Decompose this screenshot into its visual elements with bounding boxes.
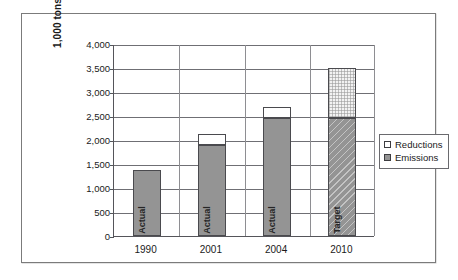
bar-group[interactable]: Target bbox=[328, 44, 356, 236]
legend-swatch-icon bbox=[384, 154, 391, 161]
plot-right-border bbox=[374, 45, 375, 236]
bar-group[interactable]: Actual bbox=[198, 44, 226, 236]
bar-segment-emissions[interactable] bbox=[198, 145, 226, 236]
y-axis-tick-label: 1,500 bbox=[68, 160, 110, 170]
legend-item[interactable]: Emissions bbox=[384, 151, 443, 164]
plot-area: ActualActualActualTarget bbox=[113, 45, 374, 237]
x-axis-tick-label: 2001 bbox=[178, 243, 243, 257]
bar-segment-reductions[interactable] bbox=[198, 134, 226, 145]
y-axis-tick-label: 2,500 bbox=[68, 112, 110, 122]
y-axis-tick-label: 3,000 bbox=[68, 88, 110, 98]
bar-segment-reductions[interactable] bbox=[328, 68, 356, 118]
legend-label: Reductions bbox=[395, 139, 443, 150]
legend-swatch-icon bbox=[384, 141, 391, 148]
chart-legend: ReductionsEmissions bbox=[379, 134, 449, 169]
bar-segment-emissions[interactable] bbox=[263, 118, 291, 236]
bar-segment-emissions[interactable] bbox=[328, 118, 356, 236]
x-axis-tick-label: 2010 bbox=[309, 243, 374, 257]
y-axis-tick-labels: 05001,0001,5002,0002,5003,0003,5004,000 bbox=[68, 40, 110, 237]
bar-segment-emissions[interactable] bbox=[133, 170, 161, 236]
y-axis-title-main: 1,000 tons eCO bbox=[52, 0, 63, 48]
legend-item[interactable]: Reductions bbox=[384, 138, 443, 151]
y-axis-tick-mark bbox=[110, 237, 114, 238]
y-axis-tick-label: 2,000 bbox=[68, 136, 110, 146]
bar-segment-reductions[interactable] bbox=[263, 107, 291, 118]
figure-frame: 1,000 tons eCO2 05001,0001,5002,0002,500… bbox=[21, 13, 436, 263]
x-axis-tick-label: 1990 bbox=[113, 243, 178, 257]
bar-group[interactable]: Actual bbox=[133, 44, 161, 236]
y-axis-tick-label: 500 bbox=[68, 208, 110, 218]
y-axis-tick-label: 3,500 bbox=[68, 64, 110, 74]
x-axis-tick-label: 2004 bbox=[244, 243, 309, 257]
x-axis-tick-labels: 1990200120042010 bbox=[113, 243, 374, 259]
legend-label: Emissions bbox=[395, 152, 438, 163]
bars-layer: ActualActualActualTarget bbox=[114, 45, 374, 236]
y-axis-tick-label: 1,000 bbox=[68, 184, 110, 194]
y-axis-tick-label: 0 bbox=[68, 232, 110, 242]
y-axis-tick-label: 4,000 bbox=[68, 40, 110, 50]
bar-group[interactable]: Actual bbox=[263, 44, 291, 236]
